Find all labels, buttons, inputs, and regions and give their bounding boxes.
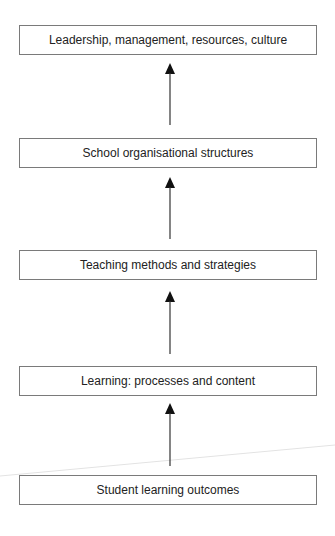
box-label: Learning: processes and content — [81, 374, 255, 388]
arrow-up-icon — [165, 177, 175, 239]
box-teaching-methods: Teaching methods and strategies — [19, 250, 317, 280]
box-student-outcomes: Student learning outcomes — [19, 475, 317, 505]
box-label: Student learning outcomes — [97, 483, 240, 497]
arrow-up-icon — [165, 291, 175, 354]
box-label: Leadership, management, resources, cultu… — [49, 33, 287, 47]
box-school-structures: School organisational structures — [19, 138, 317, 168]
box-label: Teaching methods and strategies — [80, 258, 256, 272]
box-label: School organisational structures — [83, 146, 254, 160]
arrow-up-icon — [165, 63, 175, 125]
arrow-up-icon — [165, 403, 175, 466]
box-leadership: Leadership, management, resources, cultu… — [19, 25, 317, 55]
box-learning-processes: Learning: processes and content — [19, 366, 317, 396]
